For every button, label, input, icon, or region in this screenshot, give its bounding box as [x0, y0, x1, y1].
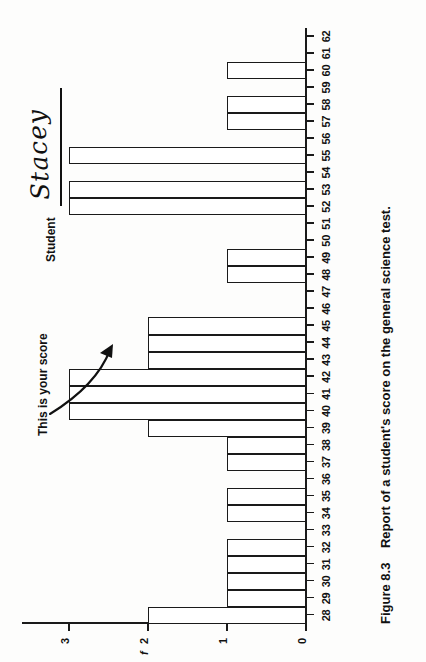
- plot-area: 2829303132333435363738394041424344454647…: [22, 28, 307, 624]
- bar: [69, 181, 307, 198]
- x-tick: [307, 495, 314, 497]
- x-tick: [307, 580, 314, 582]
- y-tick-label: 1: [217, 638, 229, 644]
- student-name-handwritten: Stacey: [22, 108, 56, 200]
- y-tick: [305, 624, 307, 631]
- x-tick-label: 58: [320, 99, 332, 111]
- x-tick-label: 30: [320, 576, 332, 588]
- x-tick-label: 43: [320, 354, 332, 366]
- caption-spacer: [378, 552, 393, 559]
- x-tick-label: 38: [320, 439, 332, 451]
- figure-caption: Figure 8.3 Report of a student's score o…: [378, 206, 393, 624]
- x-tick-label: 54: [320, 167, 332, 179]
- x-tick-label: 34: [320, 508, 332, 520]
- x-tick-label: 40: [320, 405, 332, 417]
- bar: [227, 539, 306, 556]
- x-tick: [307, 307, 314, 309]
- y-tick-label: 2: [138, 638, 150, 644]
- bar: [148, 318, 306, 335]
- bar: [227, 505, 306, 522]
- x-tick: [307, 239, 314, 241]
- x-tick-label: 47: [320, 286, 332, 298]
- x-tick-label: 60: [320, 65, 332, 77]
- x-tick: [307, 69, 314, 71]
- x-tick-label: 48: [320, 269, 332, 281]
- x-tick: [307, 597, 314, 599]
- x-tick-label: 36: [320, 473, 332, 485]
- bar-chart: 2829303132333435363738394041424344454647…: [0, 0, 426, 662]
- x-tick-label: 50: [320, 235, 332, 247]
- x-tick: [307, 393, 314, 395]
- bar: [227, 113, 306, 130]
- x-tick-label: 32: [320, 542, 332, 554]
- bar: [227, 437, 306, 454]
- x-tick: [307, 273, 314, 275]
- x-tick: [307, 256, 314, 258]
- x-tick-label: 52: [320, 201, 332, 213]
- x-tick-label: 56: [320, 133, 332, 145]
- bar: [148, 607, 306, 624]
- bar: [69, 147, 307, 164]
- bar: [227, 96, 306, 113]
- x-tick: [307, 341, 314, 343]
- x-tick: [307, 137, 314, 139]
- x-tick: [307, 154, 314, 156]
- y-tick-label: 0: [296, 638, 308, 644]
- x-tick: [307, 290, 314, 292]
- x-tick-label: 28: [320, 610, 332, 622]
- x-tick-label: 42: [320, 371, 332, 383]
- x-tick: [307, 188, 314, 190]
- x-tick: [307, 546, 314, 548]
- x-tick-label: 49: [320, 252, 332, 264]
- x-tick-label: 44: [320, 337, 332, 349]
- x-tick-label: 29: [320, 593, 332, 605]
- x-tick-label: 57: [320, 116, 332, 128]
- x-tick-label: 62: [320, 31, 332, 43]
- caption-text: Report of a student's score on the gener…: [378, 206, 393, 548]
- bar: [227, 573, 306, 590]
- x-tick: [307, 35, 314, 37]
- x-tick: [307, 358, 314, 360]
- rotated-figure-container: 2829303132333435363738394041424344454647…: [0, 0, 426, 662]
- score-pointer-arrow: [48, 330, 120, 416]
- x-tick-label: 37: [320, 456, 332, 468]
- x-tick: [307, 529, 314, 531]
- bar: [148, 335, 306, 352]
- x-tick: [307, 461, 314, 463]
- bar: [227, 556, 306, 573]
- student-name-rule: [60, 88, 62, 206]
- x-tick: [307, 324, 314, 326]
- x-tick: [307, 478, 314, 480]
- x-tick-label: 35: [320, 490, 332, 502]
- x-tick-label: 33: [320, 525, 332, 537]
- y-tick: [147, 624, 149, 631]
- x-tick: [307, 376, 314, 378]
- x-tick: [307, 103, 314, 105]
- x-tick: [307, 205, 314, 207]
- x-tick: [307, 563, 314, 565]
- x-tick: [307, 222, 314, 224]
- x-tick: [307, 614, 314, 616]
- bar: [148, 352, 306, 369]
- x-tick-label: 41: [320, 388, 332, 400]
- x-tick: [307, 512, 314, 514]
- bar: [227, 454, 306, 471]
- bar: [227, 266, 306, 283]
- x-tick-label: 46: [320, 303, 332, 315]
- x-tick: [307, 86, 314, 88]
- bar: [148, 420, 306, 437]
- x-tick-label: 55: [320, 150, 332, 162]
- bar: [227, 590, 306, 607]
- x-tick-label: 39: [320, 422, 332, 434]
- x-tick: [307, 410, 314, 412]
- x-tick-label: 53: [320, 184, 332, 196]
- x-tick: [307, 444, 314, 446]
- x-tick-label: 51: [320, 218, 332, 230]
- bar: [69, 198, 307, 215]
- x-tick: [307, 120, 314, 122]
- y-tick: [226, 624, 228, 631]
- bar: [227, 249, 306, 266]
- bar: [227, 62, 306, 79]
- student-label: Student: [44, 217, 58, 262]
- x-tick: [307, 427, 314, 429]
